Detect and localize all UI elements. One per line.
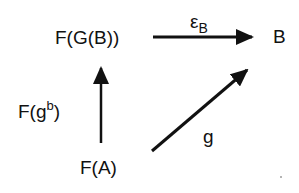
fg-flat-suffix: ) — [54, 101, 60, 122]
fg-flat-superscript: b — [47, 98, 54, 113]
g-label: g — [203, 127, 214, 146]
epsilon-subscript: B — [198, 20, 207, 36]
fg-flat-label: F(gb) — [18, 102, 60, 121]
speck-dot — [280, 176, 282, 178]
node-fgb: F(G(B)) — [55, 28, 119, 47]
g-arrow — [152, 70, 247, 151]
node-b: B — [273, 27, 286, 46]
arrows-layer — [0, 0, 299, 193]
fg-flat-prefix: F(g — [18, 101, 47, 122]
node-fa: F(A) — [80, 158, 117, 177]
epsilon-label: εB — [190, 12, 208, 31]
